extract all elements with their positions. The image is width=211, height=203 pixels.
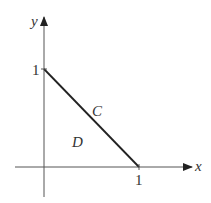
y-tick-label: 1 <box>32 62 40 78</box>
curve-label: C <box>92 103 103 119</box>
y-axis-label: y <box>29 13 38 29</box>
diagram-canvas: y 1 C D 1 x <box>0 0 211 203</box>
region-label: D <box>71 134 83 150</box>
x-axis-label: x <box>194 158 202 174</box>
x-tick-label: 1 <box>135 172 143 188</box>
